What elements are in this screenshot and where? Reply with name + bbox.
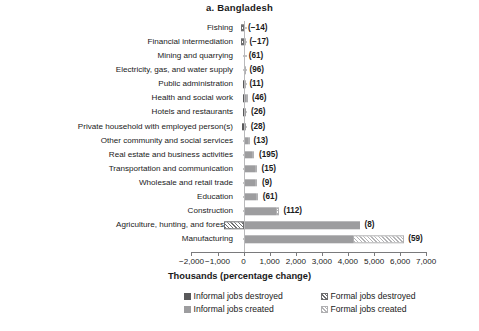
bar-value-label: (15) (262, 165, 277, 173)
bar-segment (244, 222, 360, 229)
category-label: Real estate and business activities (109, 151, 233, 159)
bar-segment (244, 151, 252, 158)
bar-segment (244, 236, 353, 243)
x-axis-tick-label: 6,000 (390, 257, 410, 266)
bar-segment (244, 193, 256, 200)
x-axis-tick (426, 252, 427, 256)
bar-row: Agriculture, hunting, and forestry(8) (0, 218, 479, 232)
bar-row: Real estate and business activities(195) (0, 148, 479, 162)
category-label: Other community and social services (101, 137, 233, 145)
bar-value-label: (11) (249, 80, 263, 88)
legend-item: Formal jobs created (321, 305, 406, 314)
category-label: Wholesale and retail trade (139, 179, 233, 187)
x-axis-tick (244, 252, 245, 256)
bar-row: Financial intermediation(−17) (0, 35, 479, 49)
bar-row: Mining and quarrying(61) (0, 49, 479, 63)
category-label: Construction (188, 207, 233, 215)
x-axis-tick-label: −2,000 (179, 257, 204, 266)
bar-value-label: (61) (263, 193, 278, 201)
category-label: Public administration (158, 80, 233, 88)
bar-row: Electricity, gas, and water supply(96) (0, 63, 479, 77)
category-label: Mining and quarrying (157, 52, 233, 60)
legend-label: Formal jobs destroyed (331, 292, 416, 301)
legend-item: Informal jobs destroyed (184, 292, 283, 301)
category-label: Health and social work (152, 94, 233, 102)
category-label: Transportation and communication (109, 165, 233, 173)
bar-row: Transportation and communication(15) (0, 162, 479, 176)
x-axis-tick (296, 252, 297, 256)
x-axis-tick-label: 0 (241, 257, 246, 266)
category-label: Manufacturing (182, 235, 233, 243)
bar-segment (244, 207, 277, 214)
bar-value-label: (61) (249, 52, 264, 60)
x-axis-tick-label: 1,000 (260, 257, 280, 266)
category-label: Hotels and restaurants (152, 108, 233, 116)
bar-value-label: (8) (364, 221, 374, 229)
bar-segment (244, 66, 246, 73)
bar-segment (255, 165, 257, 172)
bar-value-label: (13) (253, 137, 268, 145)
x-axis-tick-label: 4,000 (338, 257, 358, 266)
bar-row: Private household with employed person(s… (0, 120, 479, 134)
x-axis-title: Thousands (percentage change) (0, 271, 479, 281)
bar-value-label: (195) (259, 151, 278, 159)
bar-row: Construction(112) (0, 204, 479, 218)
bar-segment (224, 222, 244, 229)
bar-segment (244, 179, 255, 186)
legend-swatch-icon (321, 293, 328, 300)
bar-row: Health and social work(46) (0, 91, 479, 105)
bar-value-label: (−14) (248, 24, 267, 32)
chart-legend: Informal jobs destroyedFormal jobs destr… (0, 291, 479, 325)
legend-item: Informal jobs created (184, 305, 274, 314)
x-axis-tick (218, 252, 219, 256)
bar-row: Hotels and restaurants(26) (0, 105, 479, 119)
legend-swatch-icon (184, 293, 191, 300)
x-axis-tick-label: 3,000 (312, 257, 332, 266)
bar-segment (276, 207, 278, 214)
bar-segment (246, 95, 248, 102)
bar-value-label: (96) (250, 66, 265, 74)
category-label: Financial intermediation (148, 38, 233, 46)
bar-row: Public administration(11) (0, 77, 479, 91)
legend-item: Formal jobs destroyed (321, 292, 416, 301)
bar-value-label: (28) (251, 122, 266, 130)
x-axis-tick (400, 252, 401, 256)
x-axis-tick (270, 252, 271, 256)
bar-segment (252, 151, 254, 158)
bar-value-label: (59) (408, 235, 423, 243)
bar-value-label: (9) (262, 179, 272, 187)
category-label: Private household with employed person(s… (78, 123, 233, 131)
x-axis-tick-label: 7,000 (416, 257, 436, 266)
bar-segment (248, 137, 250, 144)
bar-value-label: (−17) (249, 38, 268, 46)
x-axis-tick-label: −1,000 (205, 257, 230, 266)
bar-row: Manufacturing(59) (0, 232, 479, 246)
x-axis-tick (191, 252, 192, 256)
bar-value-label: (26) (251, 108, 266, 116)
legend-swatch-icon (321, 306, 328, 313)
legend-label: Informal jobs created (194, 305, 274, 314)
legend-label: Formal jobs created (331, 305, 407, 314)
plot-area: Fishing(−14)Financial intermediation(−17… (0, 0, 479, 331)
x-axis-tick (348, 252, 349, 256)
bar-segment (244, 165, 255, 172)
x-axis-tick-label: 2,000 (286, 257, 306, 266)
category-label: Fishing (207, 24, 233, 32)
x-axis-tick (374, 252, 375, 256)
bar-row: Other community and social services(13) (0, 134, 479, 148)
zero-axis-line (244, 21, 245, 253)
bar-segment (353, 236, 404, 243)
category-label: Electricity, gas, and water supply (116, 66, 233, 74)
bar-value-label: (46) (252, 94, 267, 102)
legend-swatch-icon (184, 306, 191, 313)
bar-row: Fishing(−14) (0, 21, 479, 35)
chart-container: a. Bangladesh Fishing(−14)Financial inte… (0, 0, 479, 331)
x-axis-tick (322, 252, 323, 256)
category-label: Agriculture, hunting, and forestry (116, 221, 233, 229)
legend-label: Informal jobs destroyed (194, 292, 283, 301)
x-axis-line (192, 252, 427, 253)
x-axis-tick-label: 5,000 (364, 257, 384, 266)
bar-segment (255, 179, 257, 186)
category-label: Education (197, 193, 233, 201)
bar-row: Wholesale and retail trade(9) (0, 176, 479, 190)
